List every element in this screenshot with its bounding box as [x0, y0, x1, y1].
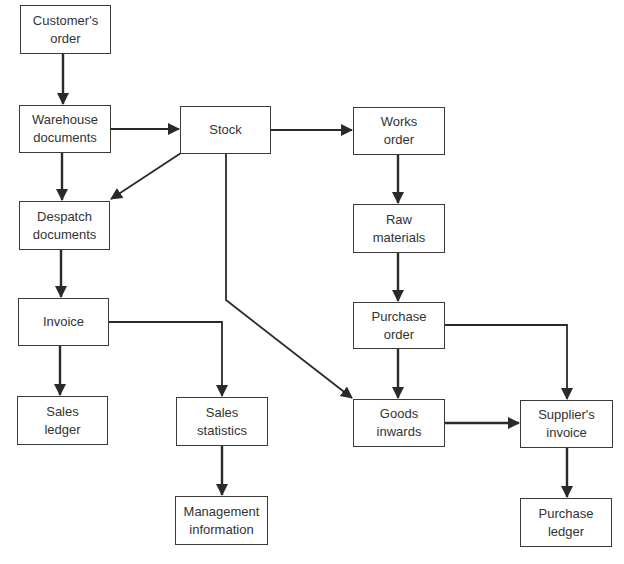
connector-arrows — [0, 0, 624, 564]
node-label: Goods inwards — [377, 405, 422, 441]
node-label: Stock — [209, 121, 242, 139]
node-goods-inwards: Goods inwards — [353, 399, 445, 447]
node-label: Despatch documents — [33, 208, 97, 244]
node-works-order: Works order — [353, 107, 445, 155]
edge-stock-to-despatch — [111, 153, 181, 199]
edge-stock-to-goods-inwards — [226, 153, 352, 398]
node-label: Purchase order — [372, 308, 427, 344]
node-label: Invoice — [43, 313, 84, 331]
node-management-information: Management information — [175, 496, 268, 545]
node-label: Sales statistics — [197, 404, 247, 440]
node-label: Customer's order — [33, 12, 98, 48]
node-customers-order: Customer's order — [20, 5, 111, 54]
node-stock: Stock — [180, 106, 271, 154]
node-label: Supplier's invoice — [538, 406, 595, 442]
order-processing-flowchart: Customer's order Warehouse documents Sto… — [0, 0, 624, 564]
node-despatch-documents: Despatch documents — [19, 201, 110, 250]
node-label: Purchase ledger — [539, 505, 594, 541]
node-purchase-ledger: Purchase ledger — [520, 498, 612, 547]
edge-invoice-to-sales-statistics — [108, 322, 222, 396]
node-raw-materials: Raw materials — [353, 204, 445, 253]
node-suppliers-invoice: Supplier's invoice — [520, 400, 613, 448]
node-label: Management information — [184, 503, 260, 539]
node-invoice: Invoice — [18, 298, 109, 346]
node-label: Sales ledger — [44, 403, 80, 439]
node-label: Raw materials — [373, 211, 426, 247]
node-sales-statistics: Sales statistics — [176, 397, 268, 446]
edge-purchase-order-to-suppliers-invoice — [444, 325, 567, 399]
node-sales-ledger: Sales ledger — [17, 396, 108, 445]
node-warehouse-documents: Warehouse documents — [19, 105, 111, 153]
node-label: Works order — [381, 113, 418, 149]
node-purchase-order: Purchase order — [353, 302, 445, 349]
node-label: Warehouse documents — [32, 111, 98, 147]
